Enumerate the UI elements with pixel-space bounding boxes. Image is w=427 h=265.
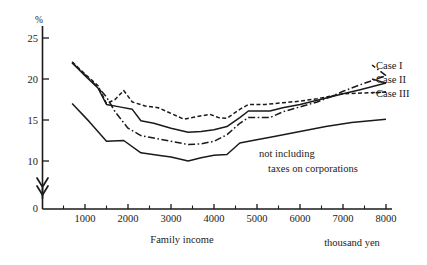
y-tick-label-15: 15 — [28, 115, 39, 126]
legend-label-case-iii: Case III — [376, 88, 410, 99]
y-tick-label-0: 0 — [33, 203, 38, 214]
y-tick-label-10: 10 — [28, 156, 39, 167]
x-tick-label-7000: 7000 — [333, 213, 354, 224]
x-tick-label-4000: 4000 — [204, 213, 225, 224]
x-axis-title: Family income — [150, 234, 214, 245]
x-tick-label-2000: 2000 — [118, 213, 139, 224]
chart-figure: 25 20 15 10 0 % — [0, 0, 427, 265]
y-tick-label-25: 25 — [28, 33, 39, 44]
y-tick-label-20: 20 — [28, 74, 39, 85]
series-line-case-i — [72, 63, 386, 145]
legend-label-case-i: Case I — [376, 60, 403, 71]
y-axis-unit-label: % — [35, 15, 43, 25]
x-tick-label-8000: 8000 — [376, 213, 397, 224]
annotation-line-1: not including — [259, 148, 315, 159]
series-paths — [72, 62, 386, 161]
series-line-case-ii — [72, 63, 386, 133]
x-tick-label-6000: 6000 — [290, 213, 311, 224]
y-tick-marks — [43, 38, 50, 161]
series-line-case-iii — [72, 62, 386, 119]
annotation-line-2: taxes on corporations — [268, 163, 358, 174]
x-tick-label-5000: 5000 — [247, 213, 268, 224]
x-tick-label-1000: 1000 — [75, 213, 96, 224]
legend-label-case-ii: Case II — [376, 74, 407, 85]
x-tick-label-3000: 3000 — [161, 213, 182, 224]
chart-svg: 25 20 15 10 0 % — [0, 0, 427, 265]
x-axis-unit-label: thousand yen — [324, 237, 380, 248]
